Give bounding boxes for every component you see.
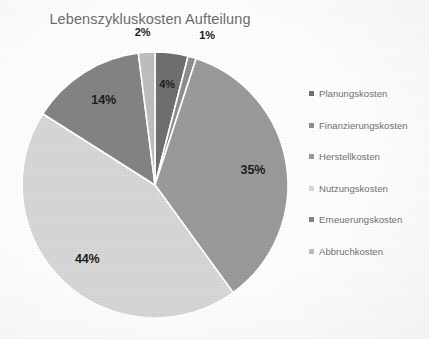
legend-item[interactable]: Erneuerungskosten — [309, 204, 429, 236]
legend-item-label: Nutzungskosten — [319, 183, 388, 194]
legend-item-label: Finanzierungskosten — [319, 120, 408, 131]
pie-data-label: 14% — [91, 93, 116, 107]
pie-data-label: 35% — [241, 163, 266, 177]
legend-item[interactable]: Herstellkosten — [309, 141, 429, 173]
legend-item-label: Herstellkosten — [319, 151, 380, 162]
legend-item-label: Planungskosten — [319, 88, 387, 99]
legend-swatch-icon — [309, 123, 314, 128]
legend-swatch-icon — [309, 154, 314, 159]
legend-item[interactable]: Abbruchkosten — [309, 236, 429, 268]
legend-item[interactable]: Finanzierungskosten — [309, 110, 429, 142]
pie-data-label: 44% — [75, 252, 100, 266]
pie-data-label: 2% — [135, 26, 151, 38]
legend-swatch-icon — [309, 249, 314, 254]
legend-swatch-icon — [309, 91, 314, 96]
legend-item-label: Abbruchkosten — [319, 246, 383, 257]
legend-swatch-icon — [309, 186, 314, 191]
pie-chart-figure: Lebenszykluskosten Aufteilung 4%1%35%44%… — [0, 0, 429, 339]
pie-plot-area: 4%1%35%44%14%2% — [0, 0, 300, 339]
pie-data-label: 1% — [199, 29, 215, 41]
chart-legend: PlanungskostenFinanzierungskostenHerstel… — [309, 78, 429, 267]
pie-data-label: 4% — [159, 78, 175, 90]
legend-item[interactable]: Planungskosten — [309, 78, 429, 110]
legend-item[interactable]: Nutzungskosten — [309, 173, 429, 205]
pie-slice-group — [22, 52, 288, 318]
legend-swatch-icon — [309, 217, 314, 222]
legend-item-label: Erneuerungskosten — [319, 214, 402, 225]
